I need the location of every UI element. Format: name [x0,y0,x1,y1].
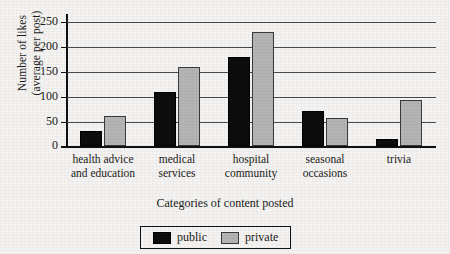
y-tick-label: 200 [20,40,58,52]
tick-mark [61,146,67,147]
y-tick-label: 100 [20,90,58,102]
bar-group [228,18,274,146]
bar-private [178,67,200,147]
x-category-label-line1: trivia [362,152,436,166]
x-axis-line [66,146,436,148]
plot-area: 050100150200250 [66,18,436,148]
bar-public [228,57,250,147]
legend: public private [140,226,291,249]
x-category-label: medicalservices [140,152,214,180]
y-axis-line [66,14,68,148]
bar-private [104,116,126,147]
tick-mark [61,97,67,98]
tick-mark [61,47,67,48]
bar-group [154,18,200,146]
x-category-label-line1: hospital [214,152,288,166]
legend-item-private: private [221,230,278,245]
tick-mark [61,122,67,123]
bar-public [154,92,176,147]
tick-mark [61,72,67,73]
legend-swatch-private [221,232,239,244]
y-tick-label: 0 [20,139,58,151]
x-category-label: health adviceand education [66,152,140,180]
bar-private [252,32,274,146]
bar-private [400,100,422,146]
x-category-label-line2: occasions [288,166,362,180]
legend-label-private: private [245,230,278,245]
bar-group [376,18,422,146]
y-tick-label: 250 [20,15,58,27]
bar-public [302,111,324,147]
bar-private [326,118,348,147]
x-category-label-line2: and education [66,166,140,180]
bar-group [302,18,348,146]
y-tick-label: 50 [20,115,58,127]
x-category-label-line1: seasonal [288,152,362,166]
x-axis-category-labels: health adviceand educationmedicalservice… [66,152,436,182]
x-category-label-line2: services [140,166,214,180]
bar-group [80,18,126,146]
legend-label-public: public [177,230,207,245]
x-category-label: seasonaloccasions [288,152,362,180]
x-category-label: trivia [362,152,436,166]
tick-mark [61,22,67,23]
x-axis-title: Categories of content posted [0,196,450,211]
bar-public [376,139,398,146]
legend-item-public: public [153,230,207,245]
x-category-label-line1: health advice [66,152,140,166]
x-category-label-line2: community [214,166,288,180]
legend-swatch-public [153,232,171,244]
x-category-label: hospitalcommunity [214,152,288,180]
y-tick-label: 150 [20,65,58,77]
x-category-label-line1: medical [140,152,214,166]
bar-chart: Number of likes (average per post) 05010… [0,0,450,254]
bar-public [80,131,102,146]
